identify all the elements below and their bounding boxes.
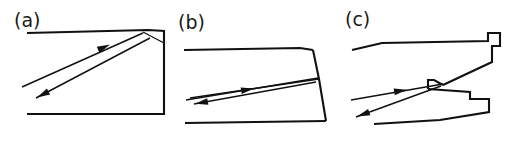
panel-b-label: (b)	[178, 11, 205, 33]
panel-c-label: (c)	[345, 8, 370, 30]
figure-container: (a) (b) (c)	[0, 0, 507, 142]
panel-a-label: (a)	[14, 9, 40, 31]
ray-diagram: (a) (b) (c)	[0, 0, 507, 142]
